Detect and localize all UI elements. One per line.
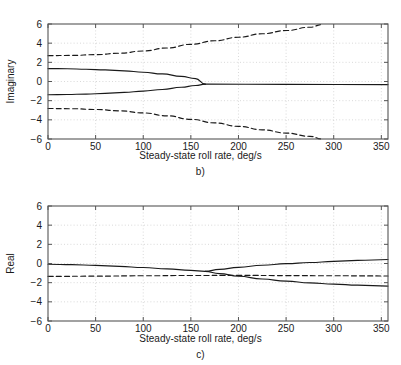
panel-imaginary: −6−4−20246050100150200250300350Imaginary… xyxy=(0,0,401,182)
ytick-label: −4 xyxy=(31,114,43,125)
ytick-label: 4 xyxy=(36,38,42,49)
xtick-label: 250 xyxy=(278,141,295,150)
ytick-label: −2 xyxy=(31,277,43,288)
xaxis-label-b: Steady-state roll rate, deg/s xyxy=(0,150,401,161)
xtick-label: 300 xyxy=(325,323,342,332)
xtick-label: 300 xyxy=(325,141,342,150)
plot-area-imaginary: −6−4−20246050100150200250300350Imaginary xyxy=(0,0,401,150)
ytick-label: −2 xyxy=(31,95,43,106)
xtick-label: 200 xyxy=(230,141,247,150)
series-branch-lower-real xyxy=(205,271,388,286)
ytick-label: 2 xyxy=(36,239,42,250)
xtick-label: 100 xyxy=(135,323,152,332)
gridlines xyxy=(48,24,388,139)
ytick-label: −4 xyxy=(31,296,43,307)
series-roll-spiral-lower xyxy=(48,84,205,95)
yaxis-label-imaginary: Imaginary xyxy=(5,60,16,104)
ytick-label: 2 xyxy=(36,57,42,68)
ytick-label: −6 xyxy=(31,134,43,145)
xtick-label: 0 xyxy=(45,323,51,332)
series-dutch-roll-lower xyxy=(48,109,322,139)
gridlines xyxy=(48,206,388,321)
xtick-label: 200 xyxy=(230,323,247,332)
ytick-label: −6 xyxy=(31,316,43,327)
figure-root: −6−4−20246050100150200250300350Imaginary… xyxy=(0,0,401,365)
plot-area-real: −6−4−20246050100150200250300350Real xyxy=(0,182,401,332)
yaxis-label-real: Real xyxy=(5,253,16,274)
xtick-label: 350 xyxy=(373,141,390,150)
xtick-label: 150 xyxy=(183,141,200,150)
series-roll-spiral-upper xyxy=(48,69,205,85)
tick-marks: −6−4−20246050100150200250300350 xyxy=(31,201,391,333)
series-dutch-roll-upper xyxy=(48,24,322,55)
series-branch-upper-real xyxy=(205,259,388,271)
panel-real: −6−4−20246050100150200250300350Real Stea… xyxy=(0,182,401,365)
ytick-label: 0 xyxy=(36,258,42,269)
ytick-label: 6 xyxy=(36,19,42,30)
ytick-label: 0 xyxy=(36,76,42,87)
series-roll-spiral-real-common xyxy=(48,264,205,271)
xtick-label: 50 xyxy=(90,141,102,150)
panel-caption-c: c) xyxy=(0,349,401,360)
xtick-label: 100 xyxy=(135,141,152,150)
series-dutch-roll-real xyxy=(48,275,388,276)
xtick-label: 250 xyxy=(278,323,295,332)
ytick-label: 4 xyxy=(36,220,42,231)
xtick-label: 150 xyxy=(183,323,200,332)
ytick-label: 6 xyxy=(36,201,42,212)
xtick-label: 50 xyxy=(90,323,102,332)
panel-caption-b: b) xyxy=(0,166,401,177)
xaxis-label-c: Steady-state roll rate, deg/s xyxy=(0,333,401,344)
xtick-label: 350 xyxy=(373,323,390,332)
xtick-label: 0 xyxy=(45,141,51,150)
